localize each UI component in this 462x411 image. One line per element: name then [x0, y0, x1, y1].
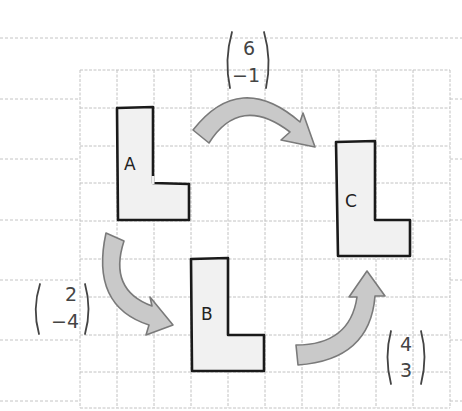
translation-diagram: A B C 6 −1 2 −4 4 3 [0, 0, 462, 411]
shape-label-c: C [345, 191, 357, 211]
vector-a-to-c-top: 6 [243, 37, 255, 59]
vector-a-to-b-bottom: −4 [51, 310, 79, 332]
vector-a-to-c-bottom: −1 [232, 64, 260, 86]
vector-b-to-c-top: 4 [400, 333, 412, 355]
vector-b-to-c-bottom: 3 [400, 359, 412, 381]
vector-a-to-b-top: 2 [65, 283, 77, 305]
shape-label-a: A [124, 154, 136, 174]
shape-label-b: B [201, 304, 213, 324]
